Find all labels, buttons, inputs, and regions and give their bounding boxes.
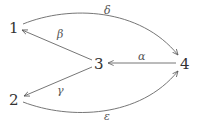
- edge-label-beta: β: [56, 28, 63, 41]
- node-4: 4: [180, 55, 190, 73]
- node-3: 3: [94, 55, 104, 73]
- node-2: 2: [9, 91, 19, 109]
- node-1: 1: [9, 19, 19, 37]
- edge-2-to-4: [23, 71, 178, 113]
- edge-label-alpha: α: [138, 50, 146, 63]
- directed-graph: δ β α γ ε 1 2 3 4: [0, 0, 198, 123]
- edge-label-delta: δ: [104, 4, 111, 17]
- edge-1-to-4: [23, 13, 178, 55]
- edge-label-epsilon: ε: [104, 110, 110, 123]
- edge-label-gamma: γ: [57, 84, 64, 97]
